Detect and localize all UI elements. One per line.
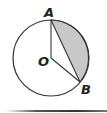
point-label-b: B <box>81 82 91 97</box>
circle-diagram: A O B <box>0 0 107 113</box>
bottom-rule <box>6 110 107 112</box>
point-label-a: A <box>43 5 54 20</box>
center-label-o: O <box>38 54 49 69</box>
